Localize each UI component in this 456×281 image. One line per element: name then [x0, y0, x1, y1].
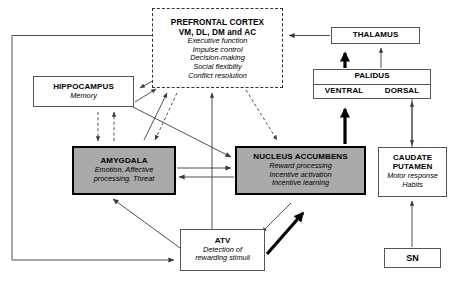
connector-pfc-to-nacc [246, 90, 277, 140]
connector-atv-to-nacc-thick [267, 213, 303, 254]
connector-pfc-to-amygdala [155, 93, 177, 140]
connector-atv-to-amygdala [113, 199, 180, 248]
palidus-segments: VENTRAL DORSAL [314, 85, 430, 99]
node-thalamus[interactable]: THALAMUS [331, 27, 420, 44]
palidus-dorsal-label: DORSAL [385, 87, 419, 96]
node-amygdala[interactable]: AMYGDALA Emotion, Affective processing. … [72, 146, 176, 195]
diagram-canvas: PREFRONTAL CORTEX VM, DL, DM and AC Exec… [0, 0, 456, 281]
hippocampus-function-1: Memory [70, 92, 97, 101]
connector-nacc-to-atv [262, 203, 291, 232]
node-sn[interactable]: SN [384, 248, 441, 268]
thalamus-title: THALAMUS [353, 31, 399, 40]
atv-function-2: rewarding stimuli [195, 254, 250, 263]
node-prefrontal-cortex[interactable]: PREFRONTAL CORTEX VM, DL, DM and AC Exec… [152, 8, 283, 88]
node-hippocampus[interactable]: HIPPOCAMPUS Memory [33, 76, 134, 107]
caudate-function-2: Habits [402, 181, 423, 190]
pfc-title-line1: PREFRONTAL CORTEX [171, 18, 264, 27]
pfc-function-5: Conflict resolution [188, 72, 247, 81]
nacc-function-3: Incentive learning [272, 179, 329, 188]
node-nucleus-accumbens[interactable]: NUCLEUS ACCUMBENS Reward processing Ince… [235, 146, 366, 195]
sn-title: SN [406, 253, 419, 263]
palidus-ventral-label: VENTRAL [325, 87, 363, 96]
palidus-title: PALIDUS [354, 72, 389, 81]
node-palidus[interactable]: PALIDUS VENTRAL DORSAL [313, 69, 431, 99]
connector-amygdala-to-pfc [144, 93, 167, 140]
node-caudate-putamen[interactable]: CAUDATE PUTAMEN Motor response Habits [378, 147, 447, 197]
amygdala-function-2: processing. Threat [94, 175, 154, 184]
palidus-header: PALIDUS [314, 70, 430, 85]
connector-hippocampus-to-pfc [135, 89, 156, 102]
node-atv[interactable]: ATV Detection of rewarding stimuli [180, 229, 265, 271]
